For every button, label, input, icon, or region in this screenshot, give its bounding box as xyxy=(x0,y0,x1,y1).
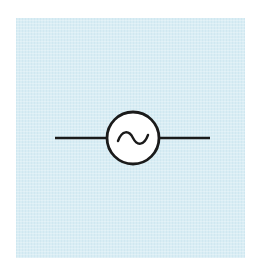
ac-voltage-source-symbol xyxy=(0,0,257,263)
diagram-canvas xyxy=(0,0,257,263)
